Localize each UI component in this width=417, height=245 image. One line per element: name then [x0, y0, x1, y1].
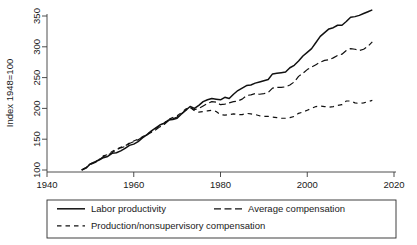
- legend-label-3: Production/nonsupervisory compensation: [91, 220, 265, 231]
- x-axis-ticks: [47, 172, 394, 177]
- series-lines: [82, 10, 373, 170]
- x-tick-label: 1960: [123, 179, 144, 190]
- series-line-average-compensation: [82, 42, 373, 170]
- x-tick-label: 1940: [36, 179, 57, 190]
- series-line-production-nonsupervisory-compensation: [82, 100, 373, 170]
- x-tick-label: 2020: [383, 179, 404, 190]
- legend-label-2: Average compensation: [248, 203, 345, 214]
- y-tick-label: 300: [31, 39, 42, 55]
- y-axis-title: Index 1948=100: [4, 59, 15, 127]
- x-tick-label: 1980: [210, 179, 231, 190]
- y-tick-label: 150: [31, 131, 42, 147]
- y-tick-label: 200: [31, 100, 42, 116]
- y-axis-ticks: [42, 16, 47, 170]
- y-tick-label: 250: [31, 70, 42, 86]
- y-tick-label: 100: [31, 162, 42, 178]
- x-tick-label: 2000: [297, 179, 318, 190]
- y-tick-label: 350: [31, 8, 42, 24]
- x-axis-tick-labels: 19401960198020002020: [36, 179, 404, 190]
- series-line-labor-productivity: [82, 10, 373, 170]
- y-axis-tick-labels: 100150200250300350: [31, 8, 42, 178]
- line-chart: Index 1948=100 100150200250300350 194019…: [0, 0, 417, 245]
- chart-figure: Index 1948=100 100150200250300350 194019…: [0, 0, 417, 245]
- legend-label-1: Labor productivity: [91, 203, 166, 214]
